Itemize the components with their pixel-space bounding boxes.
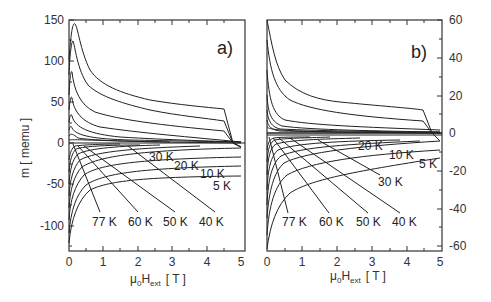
x-tick-label: 4 xyxy=(404,255,411,269)
curve-label-30k: 30 K xyxy=(378,175,403,189)
panel-label: b) xyxy=(411,42,427,62)
y-tick-label: 60 xyxy=(449,13,463,27)
y-tick-label: 40 xyxy=(449,51,463,65)
curve-label-10k: 10 K xyxy=(389,148,414,162)
curve-label-60k: 60 K xyxy=(319,215,344,229)
y-tick-label: 100 xyxy=(44,54,64,68)
curve-label-77k: 77 K xyxy=(282,215,307,229)
y-tick-label: -40 xyxy=(449,202,467,216)
x-tick-label: 1 xyxy=(299,255,306,269)
x-tick-label: 0 xyxy=(264,255,271,269)
panel-a-label-pointers xyxy=(73,144,215,212)
y-tick-label: 150 xyxy=(44,13,64,27)
curve-label-40k: 40 K xyxy=(199,215,224,229)
curve-label-40k: 40 K xyxy=(392,215,417,229)
y-tick-label: -100 xyxy=(40,219,64,233)
curve-label-5k: 5 K xyxy=(419,157,437,171)
curve-label-60k: 60 K xyxy=(128,215,153,229)
x-tick-label: 2 xyxy=(135,255,142,269)
x-tick-label: 2 xyxy=(334,255,341,269)
x-tick-label: 3 xyxy=(169,255,176,269)
panel-b-upper-curves xyxy=(267,20,440,141)
y-tick-label: 50 xyxy=(51,95,65,109)
x-axis-title: μ0Hext[ T ] xyxy=(330,269,386,285)
y-tick-label: 0 xyxy=(57,136,64,150)
y-tick-label: -60 xyxy=(449,239,467,253)
curve-label-20k: 20 K xyxy=(174,159,199,173)
y-tick-label: -20 xyxy=(449,164,467,178)
panel-a-upper-curves xyxy=(69,24,241,147)
x-tick-label: 3 xyxy=(369,255,376,269)
x-tick-label: 5 xyxy=(238,255,245,269)
panel-b: 60 40 20 0 -20 -40 -60 0 1 2 3 4 5 μ0Hex… xyxy=(264,13,467,285)
x-tick-label: 0 xyxy=(66,255,73,269)
y-axis-title: m [ memu ] xyxy=(18,118,32,178)
x-tick-label: 4 xyxy=(204,255,211,269)
curve-label-5k: 5 K xyxy=(213,179,231,193)
curve-label-30k: 30 K xyxy=(149,150,174,164)
y-tick-label: 20 xyxy=(449,89,463,103)
y-tick-label: 0 xyxy=(449,126,456,140)
panel-label: a) xyxy=(217,38,233,58)
x-tick-label: 1 xyxy=(100,255,107,269)
x-tick-label: 5 xyxy=(437,255,444,269)
curve-label-50k: 50 K xyxy=(163,215,188,229)
panel-b-lower-curves xyxy=(267,137,440,249)
y-tick-label: -50 xyxy=(47,177,65,191)
panel-a: 150 100 50 0 -50 -100 0 1 2 3 4 5 m [ me… xyxy=(18,13,245,288)
curve-label-20k: 20 K xyxy=(358,139,383,153)
curve-label-77k: 77 K xyxy=(92,215,117,229)
curve-label-50k: 50 K xyxy=(356,215,381,229)
figure: 150 100 50 0 -50 -100 0 1 2 3 4 5 m [ me… xyxy=(0,0,491,302)
x-axis-title: μ0Hext[ T ] xyxy=(130,272,186,288)
